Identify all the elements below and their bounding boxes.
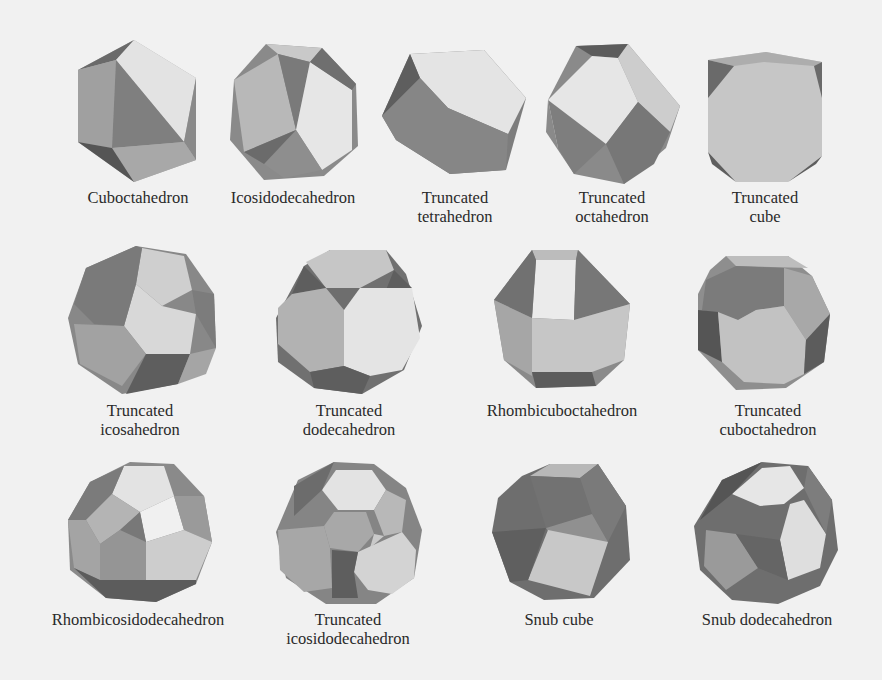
truncated-cube-illustration: [706, 52, 824, 184]
label-cuboctahedron: Cuboctahedron: [88, 188, 189, 207]
rhombicosidodecahedron-illustration: [66, 460, 214, 604]
cuboctahedron-illustration: [76, 38, 206, 184]
truncated-icosahedron-illustration: [66, 244, 218, 396]
truncated-dodecahedron-illustration: [274, 248, 424, 396]
label-rhombicosidodecahedron: Rhombicosidodecahedron: [52, 610, 224, 629]
label-truncated-icosahedron: Truncated icosahedron: [100, 401, 180, 439]
label-truncated-tetrahedron: Truncated tetrahedron: [417, 188, 492, 226]
snub-dodecahedron-illustration: [692, 460, 840, 604]
truncated-octahedron-illustration: [544, 44, 682, 184]
label-truncated-cube: Truncated cube: [732, 188, 798, 226]
label-rhombicuboctahedron: Rhombicuboctahedron: [487, 401, 637, 420]
snub-cube-illustration: [490, 462, 634, 602]
label-snub-dodecahedron: Snub dodecahedron: [702, 610, 833, 629]
rhombicuboctahedron-illustration: [492, 248, 632, 390]
label-truncated-icosidodecahedron: Truncated icosidodecahedron: [286, 610, 410, 648]
truncated-cuboctahedron-illustration: [696, 250, 832, 390]
label-truncated-cuboctahedron: Truncated cuboctahedron: [719, 401, 816, 439]
truncated-icosidodecahedron-illustration: [274, 460, 424, 606]
label-truncated-octahedron: Truncated octahedron: [575, 188, 648, 226]
label-snub-cube: Snub cube: [524, 610, 593, 629]
label-truncated-dodecahedron: Truncated dodecahedron: [303, 401, 396, 439]
truncated-tetrahedron-illustration: [380, 50, 530, 178]
icosidodecahedron-illustration: [224, 40, 364, 182]
label-icosidodecahedron: Icosidodecahedron: [231, 188, 356, 207]
